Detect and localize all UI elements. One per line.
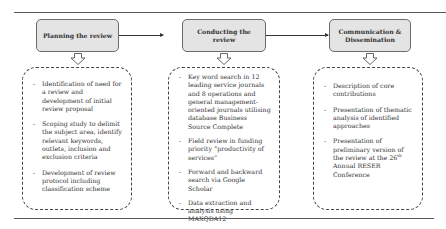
phase-conducting-box: Conducting the review: [182, 19, 266, 52]
list-item: -Identification of need for a review and…: [33, 80, 123, 113]
list-item: -Data extraction and analysis using MAXQ…: [179, 199, 271, 224]
phase-communication-title: Communication & Dissemination: [333, 28, 407, 44]
down-arrow-icon: [362, 53, 378, 65]
arrow-conducting-to-communication: [266, 35, 328, 36]
communication-details-box: -Description of core contributions -Pres…: [313, 67, 423, 210]
list-item: -Key word search in 12 leading service j…: [179, 73, 271, 131]
list-item: -Scoping study to delimit the subject ar…: [33, 120, 123, 161]
down-arrow-icon: [216, 53, 232, 65]
phase-communication-box: Communication & Dissemination: [329, 19, 411, 52]
list-item: -Field review in funding priority “produ…: [179, 137, 271, 162]
list-item: -Presentation of preliminary version of …: [324, 137, 414, 178]
list-item: -Description of core contributions: [324, 82, 414, 99]
planning-details-box: -Identification of need for a review and…: [22, 67, 132, 210]
list-item: -Presentation of thematic analysis of id…: [324, 106, 414, 131]
phase-planning-box: Planning the review: [36, 19, 119, 52]
down-arrow-icon: [70, 53, 86, 65]
bottom-rule: [14, 218, 434, 219]
top-rule: [14, 12, 446, 13]
list-item: -Forward and backward search via Google …: [179, 168, 271, 193]
conducting-details-box: -Key word search in 12 leading service j…: [168, 67, 280, 210]
arrow-planning-to-conducting: [119, 35, 163, 36]
phase-conducting-title: Conducting the review: [186, 28, 262, 44]
arrowhead-icon: [160, 33, 164, 37]
phase-planning-title: Planning the review: [43, 32, 112, 40]
list-item: -Development of review protocol includin…: [33, 169, 123, 194]
